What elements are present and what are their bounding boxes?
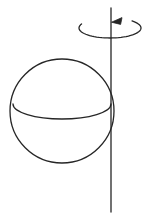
figure-root (0, 0, 149, 221)
diagram-background (0, 0, 149, 221)
rotating-sphere-diagram (0, 0, 149, 221)
